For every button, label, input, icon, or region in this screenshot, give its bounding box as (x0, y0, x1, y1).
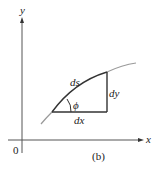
ds-label: ds (70, 76, 80, 88)
y-axis-label: y (19, 4, 25, 16)
y-axis-arrow-icon (20, 17, 24, 23)
x-axis-arrow-icon (138, 138, 144, 142)
phi-label: ϕ (73, 99, 79, 111)
curve-lower-extension (41, 112, 52, 124)
caption: (b) (92, 150, 105, 163)
curve-upper-extension (107, 63, 136, 72)
arc-length-diagram: y x 0 ds dy dx ϕ (b) (0, 0, 156, 182)
phi-angle-arc (67, 99, 71, 112)
origin-label: 0 (13, 144, 19, 156)
x-axis-label: x (145, 133, 151, 145)
dx-label: dx (74, 114, 85, 126)
dy-label: dy (109, 87, 120, 99)
